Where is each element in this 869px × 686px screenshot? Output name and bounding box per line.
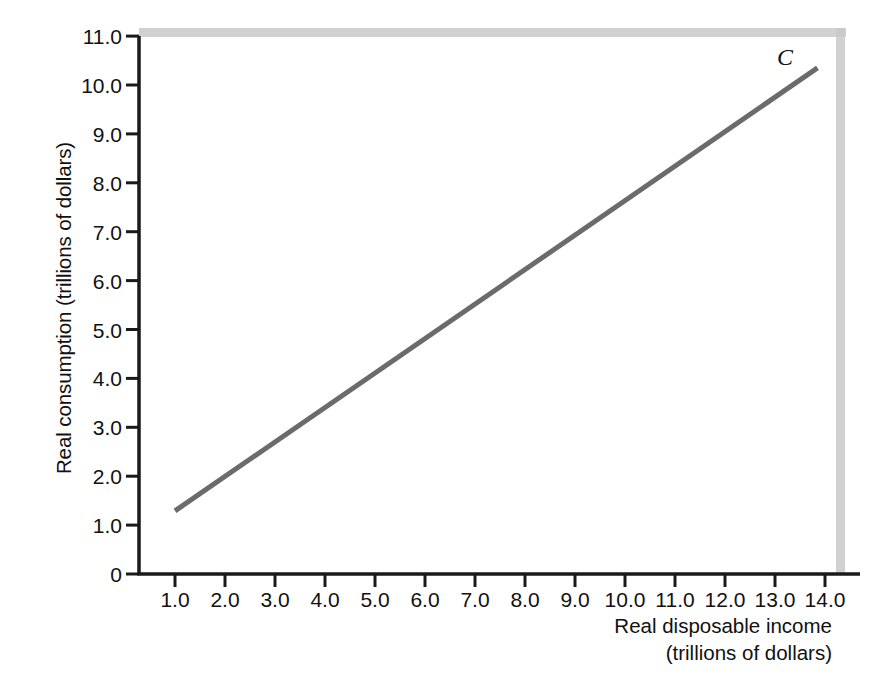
curve-label-c: C	[777, 44, 793, 71]
x-axis-title: Real disposable income (trillions of dol…	[420, 612, 832, 666]
plot-area	[0, 0, 869, 686]
y-tick-label: 4.0	[48, 368, 122, 389]
y-tick-label: 10.0	[48, 75, 122, 96]
y-tick-label: 6.0	[48, 271, 122, 292]
axis-tick-marks	[126, 36, 825, 587]
plot-frame-shadow	[139, 28, 846, 574]
y-tick-label: 2.0	[48, 466, 122, 487]
x-tick-label: 14.0	[795, 589, 855, 610]
data-series	[175, 68, 818, 511]
y-tick-label: 3.0	[48, 417, 122, 438]
y-tick-label: 8.0	[48, 173, 122, 194]
x-axis-title-line-2: (trillions of dollars)	[420, 639, 832, 666]
y-tick-label: 11.0	[48, 26, 122, 47]
y-axis-tick-labels: 01.02.03.04.05.06.07.08.09.010.011.0	[48, 0, 122, 686]
axis-lines	[137, 36, 860, 574]
y-tick-label: 5.0	[48, 320, 122, 341]
y-tick-label: 7.0	[48, 222, 122, 243]
y-tick-label: 9.0	[48, 124, 122, 145]
y-tick-label: 1.0	[48, 515, 122, 536]
x-axis-title-line-1: Real disposable income	[614, 614, 832, 637]
consumption-function-chart: Real consumption (trillions of dollars) …	[0, 0, 869, 686]
y-tick-label: 0	[48, 564, 122, 585]
